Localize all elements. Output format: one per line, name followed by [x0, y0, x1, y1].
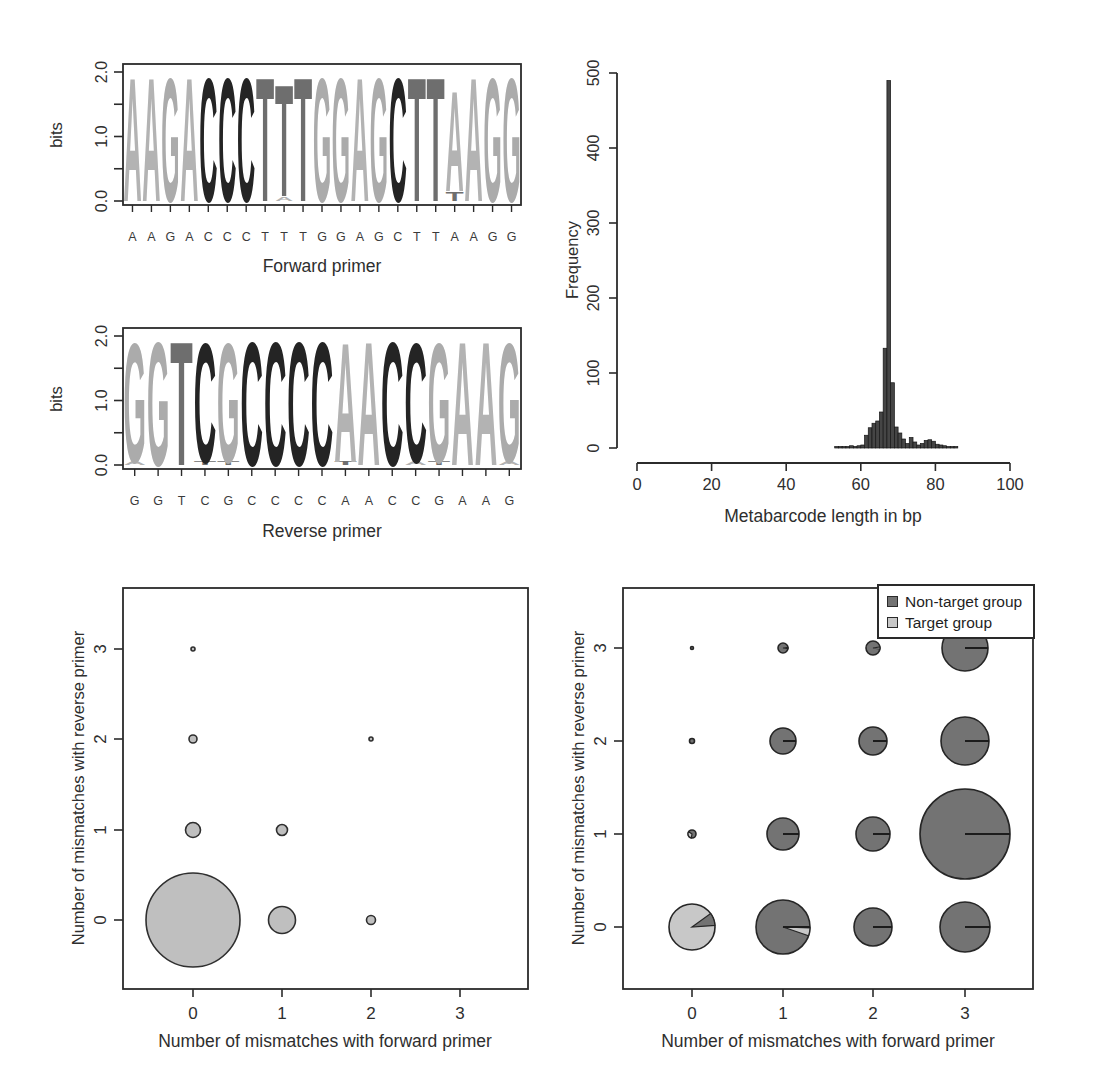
plots-canvas: 0.01.02.0AAAAGGAACCCCCCTTATTTTGGGGAAGGCC… — [0, 0, 1095, 1067]
svg-text:1: 1 — [91, 825, 110, 834]
svg-text:0: 0 — [91, 915, 110, 924]
svg-text:G: G — [507, 230, 517, 244]
legend-row-non-target: Non-target group — [887, 591, 1026, 612]
svg-text:200: 200 — [585, 285, 602, 312]
svg-text:0: 0 — [632, 475, 641, 493]
forward-logo-caption: Forward primer — [263, 256, 382, 277]
svg-text:40: 40 — [777, 475, 795, 493]
svg-text:C: C — [223, 230, 232, 244]
svg-text:1: 1 — [277, 1004, 286, 1023]
svg-text:T: T — [178, 494, 186, 508]
bubble-left-x-axis-title: Number of mismatches with forward primer — [158, 1031, 492, 1052]
reverse-logo-y-axis-title: bits — [47, 386, 66, 412]
svg-text:0.0: 0.0 — [93, 190, 110, 212]
svg-text:A: A — [365, 494, 374, 508]
svg-text:C: C — [317, 494, 326, 508]
svg-text:G: G — [336, 230, 346, 244]
svg-text:C: C — [411, 494, 420, 508]
svg-text:20: 20 — [702, 475, 720, 493]
histogram-y-axis-title: Frequency — [563, 221, 582, 299]
svg-text:A: A — [446, 62, 464, 222]
svg-text:G: G — [223, 494, 233, 508]
mismatch-bubble-plot-all: 01230123 — [91, 588, 528, 1023]
svg-text:300: 300 — [585, 210, 602, 237]
reverse-logo-caption: Reverse primer — [262, 521, 382, 542]
svg-text:60: 60 — [852, 475, 870, 493]
svg-text:1.0: 1.0 — [93, 389, 110, 411]
svg-text:0: 0 — [188, 1004, 197, 1023]
svg-text:A: A — [469, 230, 478, 244]
svg-text:A: A — [450, 230, 459, 244]
svg-text:A: A — [458, 494, 467, 508]
svg-text:T: T — [275, 52, 293, 230]
reverse-primer-logo: 0.01.02.0AGGGGTTTCCTGGCCCCCCCCTAAAACCACC… — [93, 304, 521, 508]
legend-swatch-target-icon — [887, 617, 898, 628]
svg-text:A: A — [356, 230, 365, 244]
svg-text:G: G — [153, 494, 163, 508]
length-histogram: 0100200300400500020406080100 — [585, 60, 1024, 493]
svg-text:C: C — [271, 494, 280, 508]
svg-text:3: 3 — [455, 1004, 464, 1023]
svg-text:A: A — [341, 494, 350, 508]
forward-logo-y-axis-title: bits — [47, 122, 66, 148]
svg-text:0: 0 — [591, 922, 610, 931]
svg-text:0.0: 0.0 — [93, 454, 110, 476]
svg-text:1: 1 — [591, 829, 610, 838]
legend-label-target: Target group — [905, 612, 992, 633]
svg-text:C: C — [247, 494, 256, 508]
svg-text:2: 2 — [366, 1004, 375, 1023]
svg-text:C: C — [388, 494, 397, 508]
svg-text:100: 100 — [585, 360, 602, 387]
svg-text:3: 3 — [960, 1004, 969, 1023]
legend-row-target: Target group — [887, 612, 1026, 633]
svg-text:A: A — [128, 230, 137, 244]
svg-text:0: 0 — [687, 1004, 696, 1023]
svg-text:G: G — [130, 494, 140, 508]
svg-text:C: C — [393, 230, 402, 244]
svg-text:A: A — [147, 230, 156, 244]
svg-text:500: 500 — [585, 60, 602, 87]
svg-text:G: G — [504, 494, 514, 508]
forward-primer-logo: 0.01.02.0AAAAGGAACCCCCCTTATTTTGGGGAAGGCC… — [93, 41, 521, 244]
svg-text:A: A — [185, 230, 194, 244]
svg-text:3: 3 — [591, 643, 610, 652]
svg-text:0: 0 — [585, 443, 602, 452]
svg-text:3: 3 — [91, 644, 110, 653]
svg-text:T: T — [432, 230, 440, 244]
histogram-x-axis-title: Metabarcode length in bp — [724, 506, 922, 527]
svg-text:G: G — [374, 230, 384, 244]
svg-text:C: C — [294, 494, 303, 508]
svg-text:T: T — [261, 230, 269, 244]
svg-text:G: G — [166, 230, 176, 244]
legend-label-non-target: Non-target group — [905, 591, 1022, 612]
svg-text:2.0: 2.0 — [93, 61, 110, 83]
svg-text:2: 2 — [91, 734, 110, 743]
svg-text:2: 2 — [868, 1004, 877, 1023]
bubble-right-y-axis-title: Number of mismatches with reverse primer — [569, 631, 588, 946]
svg-text:G: G — [488, 230, 498, 244]
svg-text:T: T — [299, 230, 307, 244]
bubble-left-y-axis-title: Number of mismatches with reverse primer — [69, 631, 88, 946]
svg-text:C: C — [200, 494, 209, 508]
svg-text:T: T — [280, 230, 288, 244]
figure-panel: 0.01.02.0AAAAGGAACCCCCCTTATTTTGGGGAAGGCC… — [0, 0, 1095, 1067]
legend: Non-target group Target group — [877, 584, 1035, 639]
svg-text:G: G — [434, 494, 444, 508]
svg-text:T: T — [413, 230, 421, 244]
svg-text:1: 1 — [778, 1004, 787, 1023]
bubble-right-x-axis-title: Number of mismatches with forward primer — [661, 1031, 995, 1052]
svg-text:G: G — [317, 230, 327, 244]
svg-text:2.0: 2.0 — [93, 325, 110, 347]
svg-text:1.0: 1.0 — [93, 125, 110, 147]
legend-swatch-non-target-icon — [887, 596, 898, 607]
svg-text:80: 80 — [926, 475, 944, 493]
svg-text:C: C — [242, 230, 251, 244]
svg-text:A: A — [482, 494, 491, 508]
svg-text:C: C — [204, 230, 213, 244]
svg-text:400: 400 — [585, 135, 602, 162]
svg-text:2: 2 — [591, 736, 610, 745]
svg-text:100: 100 — [996, 475, 1024, 493]
mismatch-bubble-plot-grouped: 01230123 — [591, 588, 1033, 1023]
